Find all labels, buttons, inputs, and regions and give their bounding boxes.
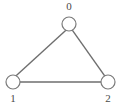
node-0[interactable] [62,17,76,31]
node-label-2: 2 [101,93,115,104]
node-2[interactable] [101,75,115,89]
node-group [6,17,115,89]
node-label-0: 0 [62,1,76,12]
node-label-1: 1 [6,93,20,104]
node-1[interactable] [6,75,20,89]
edge-0-1 [16,30,66,75]
edge-group [16,30,105,82]
graph-canvas [0,0,121,107]
edge-0-2 [72,30,104,76]
graph-figure: 0 1 2 [0,0,121,107]
